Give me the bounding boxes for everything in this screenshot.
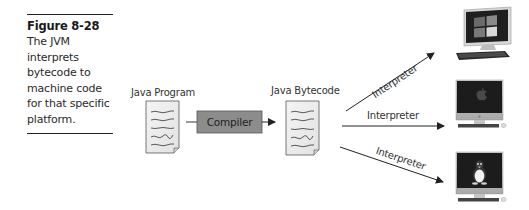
java-bytecode-label: Java Bytecode: [271, 85, 340, 96]
windows-pc-icon: [456, 7, 511, 60]
compiler-label: Compiler: [197, 111, 262, 133]
mac-icon: [456, 80, 506, 128]
interpreter-label-mac: Interpreter: [367, 110, 419, 121]
linux-pc-icon: [456, 152, 506, 202]
jvm-diagram: [0, 0, 529, 210]
java-program-document-icon: [146, 101, 179, 153]
java-bytecode-document-icon: [286, 101, 319, 155]
java-program-label: Java Program: [131, 87, 195, 98]
